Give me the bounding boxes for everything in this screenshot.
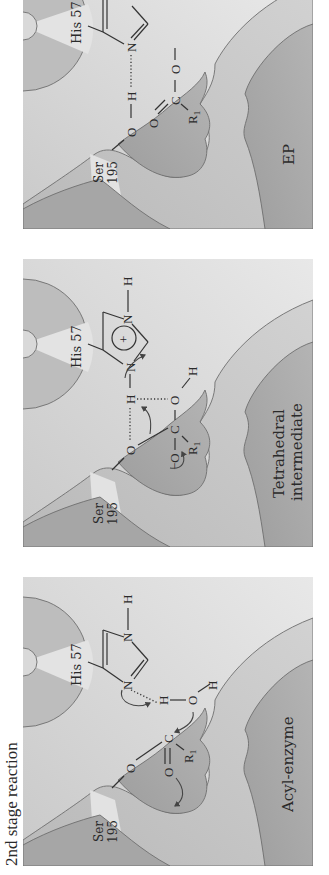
panel-title-tetrahedral-line1: Tetrahedral (270, 409, 288, 498)
his-charge: + (116, 336, 131, 343)
panel-title-acyl-enzyme: Acyl-enzyme (279, 716, 297, 813)
ser-number-label: 195 (106, 161, 120, 184)
atom-product-o-single: O (168, 65, 183, 74)
atom-ser-o: O (124, 128, 139, 137)
his57-label: His 57 (69, 1, 84, 44)
atom-his-h-top: H (120, 595, 135, 604)
ser-number-label: 195 (106, 820, 120, 843)
atom-ser-o: O (123, 764, 138, 773)
atom-hydroxyl-h: H (185, 367, 200, 376)
atom-water-h2: H (205, 681, 220, 690)
ser-number-label: 195 (106, 502, 120, 525)
atom-shared-h: H (123, 395, 138, 404)
atom-product-c: C (168, 96, 183, 105)
atom-his-h-top: H (120, 277, 135, 286)
ser-label: Ser (92, 162, 106, 183)
panel-title-tetrahedral-line2: intermediate (288, 403, 306, 501)
atom-hydroxyl-o: O (167, 396, 182, 405)
atom-his-n-top: N (120, 632, 135, 642)
atom-central-c: C (167, 425, 182, 434)
panel-ep: His 57 Ser 195 N H O C O O R1 EP (0, 0, 313, 232)
figure-caption: 2nd stage reaction (2, 742, 21, 866)
atom-carbonyl-c: C (161, 734, 176, 743)
his57-label: His 57 (69, 643, 84, 686)
ser-label: Ser (92, 821, 106, 842)
atom-product-o-double: O (146, 119, 161, 128)
his57-label: His 57 (69, 325, 84, 368)
panel-title-ep: EP (280, 144, 298, 165)
atom-carbonyl-o: O (161, 768, 176, 777)
atom-ser-h: H (124, 92, 139, 101)
atom-water-o: O (185, 696, 200, 705)
atom-ser-o: O (123, 446, 138, 455)
panel-tetrahedral-intermediate: His 57 Ser 195 + N H N H O C O H −O (0, 259, 313, 550)
atom-his-n: N (124, 42, 139, 52)
atom-his-n-top: N (120, 314, 135, 324)
panel-acyl-enzyme: His 57 Ser 195 N H N H O H (0, 577, 313, 868)
figure-canvas: 2nd stage reaction His 57 Ser 195 (0, 0, 329, 875)
atom-his-n-bottom: N (123, 362, 138, 372)
ser-label: Ser (92, 503, 106, 524)
atom-his-n-bottom: N (120, 680, 135, 690)
atom-water-h1: H (156, 696, 171, 705)
